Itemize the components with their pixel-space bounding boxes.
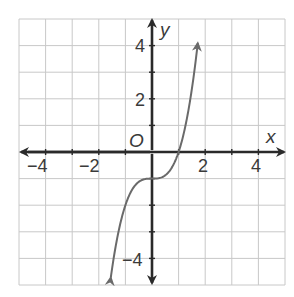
x-tick-label-neg2: −2 xyxy=(79,156,100,176)
x-tick-label-neg4: −4 xyxy=(27,156,48,176)
origin-label: O xyxy=(129,130,144,151)
y-tick-label-4: 4 xyxy=(135,36,145,56)
x-tick-label-2: 2 xyxy=(198,156,208,176)
coordinate-plane: x y O −4 −2 2 4 4 2 −4 xyxy=(0,0,294,297)
y-tick-label-neg4: −4 xyxy=(122,250,143,270)
y-axis-label: y xyxy=(158,19,171,40)
cubic-curve xyxy=(111,43,198,277)
x-axis-label: x xyxy=(265,126,277,147)
y-tick-label-2: 2 xyxy=(135,90,145,110)
x-tick-label-4: 4 xyxy=(251,156,261,176)
